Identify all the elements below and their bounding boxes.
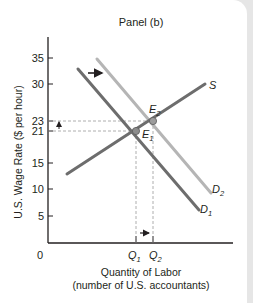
d1-label: D1	[200, 203, 212, 218]
y-tick-30: 30	[32, 78, 44, 90]
y-tick-21: 21	[32, 125, 44, 137]
q1-label: Q1	[128, 249, 141, 264]
equilibrium-e1-point	[132, 127, 139, 134]
x-axis-label: Quantity of Labor	[101, 266, 182, 278]
q2-label: Q2	[149, 249, 163, 264]
x-axis-sublabel: (number of U.S. accountants)	[72, 279, 209, 291]
y-tick-15: 15	[32, 157, 44, 169]
d2-label: D2	[212, 183, 225, 198]
labor-market-chart: Panel (b) U.S. Wage Rate ($ per hour) 35…	[0, 0, 253, 303]
demand-curve-d1	[78, 69, 199, 210]
y-tick-10: 10	[32, 183, 44, 195]
origin-label: 0	[37, 249, 43, 261]
y-ticks	[48, 58, 53, 216]
chart-title: Panel (b)	[119, 16, 164, 28]
y-tick-5: 5	[38, 210, 44, 222]
demand-curve-d2	[97, 59, 211, 193]
y-axis-label: U.S. Wage Rate ($ per hour)	[12, 85, 24, 218]
supply-label: S	[209, 79, 217, 91]
equilibrium-e2-point	[149, 117, 156, 124]
e1-label: E1	[142, 128, 154, 143]
y-tick-35: 35	[32, 52, 44, 64]
